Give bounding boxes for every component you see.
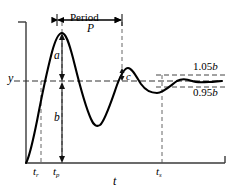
y-axis-label: y	[8, 72, 13, 84]
lower-tolerance-label: 0.95b	[193, 87, 218, 98]
lower-tolerance-var: b	[212, 86, 218, 98]
lower-tolerance-value: 0.95	[193, 86, 212, 98]
upper-tolerance-var: b	[212, 60, 218, 72]
period-label: Period	[70, 12, 99, 23]
peak-time-sub: p	[56, 171, 59, 178]
upper-tolerance-label: 1.05b	[193, 61, 218, 72]
second-peak-label: c	[126, 72, 131, 83]
settling-time-label: ts	[156, 166, 162, 179]
peak-time-label: tp	[53, 166, 59, 179]
upper-tolerance-value: 1.05	[193, 60, 212, 72]
overshoot-label: a	[54, 50, 60, 62]
settling-time-sub: s	[159, 171, 162, 178]
x-axis-label: t	[113, 175, 116, 187]
steady-state-label: b	[54, 112, 60, 124]
rise-time-label: tr	[33, 166, 39, 179]
period-symbol-label: P	[87, 23, 94, 35]
rise-time-sub: r	[36, 171, 39, 178]
